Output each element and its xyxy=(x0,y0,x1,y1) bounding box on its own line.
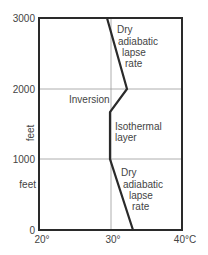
y-tick-2000: 2000 xyxy=(13,84,36,95)
x-tick-20: 20° xyxy=(34,234,49,245)
ann-text: lapse xyxy=(129,190,153,201)
ann-text: Isothermal xyxy=(115,121,162,132)
x-tick-40c: 40°C xyxy=(174,234,196,245)
y-tick-1000: 1000 xyxy=(13,154,36,165)
annotation-lower-dry-adiabatic: Dry adiabatic lapse rate xyxy=(121,167,163,212)
y-axis-label: feet xyxy=(19,179,36,190)
ann-text: lapse xyxy=(122,47,146,58)
annotation-upper-dry-adiabatic: Dry adiabatic lapse rate xyxy=(117,24,158,69)
y-tick-3000: 3000 xyxy=(13,13,36,24)
y-axis-label-rotated: feet xyxy=(25,124,36,141)
ann-text: layer xyxy=(115,132,137,143)
annotation-inversion: Inversion xyxy=(69,94,110,105)
ann-text: adiabatic xyxy=(123,179,163,190)
ann-text: Dry xyxy=(117,24,133,35)
x-tick-30: 30° xyxy=(105,234,120,245)
ann-text: adiabatic xyxy=(118,36,158,47)
ann-text: rate xyxy=(132,201,150,212)
ann-text: Dry xyxy=(121,167,137,178)
lapse-rate-chart: 3000 2000 1000 0 feet feet 20° 30° 40°C … xyxy=(0,0,208,255)
ann-text: rate xyxy=(125,58,143,69)
annotation-isothermal-layer: Isothermal layer xyxy=(115,121,162,143)
